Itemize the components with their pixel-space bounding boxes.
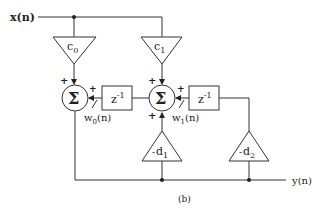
- output-bus: [75, 178, 286, 182]
- svg-text:Σ: Σ: [155, 89, 166, 108]
- figure-caption: (b): [178, 194, 191, 204]
- gain-d2: -d2: [229, 131, 269, 161]
- junction-dot: [160, 178, 164, 182]
- junction-dot: [247, 178, 251, 182]
- delay-z1: z-1: [189, 86, 219, 110]
- gain-c1: c1: [141, 37, 182, 64]
- gain-d1: -d1: [142, 131, 182, 161]
- input-bus: [38, 15, 162, 37]
- gain-c0: c0: [53, 37, 96, 64]
- filter-block-diagram: x(n) c0 c1 Σ + + z-1 w0(n) Σ + + +: [0, 0, 324, 221]
- adder-sum1: Σ: [149, 85, 175, 111]
- input-label: x(n): [10, 11, 35, 24]
- delay-z0: z-1: [102, 86, 132, 110]
- plus-sign: +: [89, 84, 97, 94]
- plus-sign: +: [60, 75, 68, 86]
- junction-dot: [72, 15, 76, 19]
- state-w0: w0(n): [84, 112, 111, 126]
- plus-sign: +: [148, 110, 156, 121]
- svg-text:Σ: Σ: [68, 89, 79, 108]
- output-label: y(n): [291, 175, 312, 186]
- adder-sum0: Σ: [62, 85, 88, 111]
- plus-sign: +: [148, 75, 156, 86]
- state-w1: w1(n): [172, 112, 199, 126]
- plus-sign: +: [177, 84, 185, 94]
